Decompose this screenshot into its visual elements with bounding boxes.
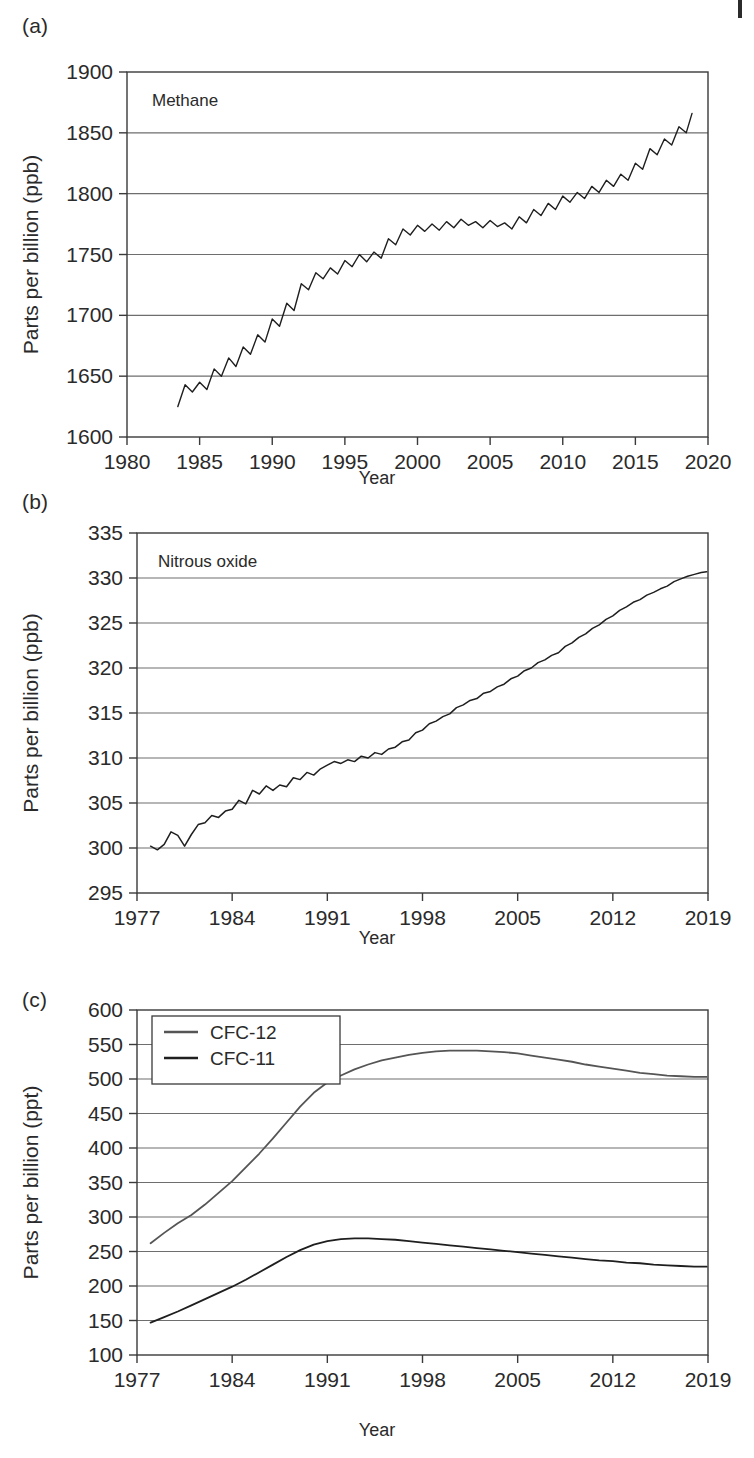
y-tick-label: 150 xyxy=(88,1309,123,1332)
y-tick-label: 300 xyxy=(88,836,123,859)
x-tick-label: 1998 xyxy=(399,906,446,929)
y-tick-label: 320 xyxy=(88,656,123,679)
y-tick-label: 1650 xyxy=(66,364,113,387)
y-tick-label: 310 xyxy=(88,746,123,769)
legend-label-cfc-11: CFC-11 xyxy=(210,1048,275,1069)
x-axis-title-c: Year xyxy=(0,1420,754,1441)
x-tick-label: 1984 xyxy=(209,906,256,929)
y-tick-label: 335 xyxy=(88,521,123,544)
y-tick-label: 325 xyxy=(88,611,123,634)
y-axis-title: Parts per billion (ppb) xyxy=(19,155,42,355)
x-tick-label: 2019 xyxy=(685,1368,732,1391)
y-tick-label: 450 xyxy=(88,1102,123,1125)
panel-nitrous-oxide: (b) 295300305310315320325330335197719841… xyxy=(0,490,754,960)
y-tick-label: 500 xyxy=(88,1067,123,1090)
series-line-nitrous-oxide xyxy=(151,572,707,850)
y-tick-label: 1600 xyxy=(66,425,113,448)
x-tick-label: 2019 xyxy=(685,906,732,929)
y-tick-label: 1900 xyxy=(66,60,113,83)
series-line-methane xyxy=(178,113,692,406)
y-tick-label: 330 xyxy=(88,566,123,589)
y-tick-label: 1750 xyxy=(66,243,113,266)
y-tick-label: 550 xyxy=(88,1033,123,1056)
chart-methane: 1600165017001750180018501900198019851990… xyxy=(0,0,754,500)
y-tick-label: 1850 xyxy=(66,121,113,144)
x-tick-label: 2012 xyxy=(589,1368,636,1391)
chart-cfc: 1001502002503003504004505005506001977198… xyxy=(0,950,754,1458)
y-tick-label: 200 xyxy=(88,1274,123,1297)
chart-nitrous-oxide: 2953003053103153203253303351977198419911… xyxy=(0,490,754,960)
x-tick-label: 2005 xyxy=(494,1368,541,1391)
y-tick-label: 350 xyxy=(88,1171,123,1194)
x-tick-label: 1977 xyxy=(114,1368,161,1391)
x-tick-label: 2005 xyxy=(494,906,541,929)
x-tick-label: 1991 xyxy=(304,906,351,929)
panel-methane: (a) 160016501700175018001850190019801985… xyxy=(0,0,754,500)
x-axis-title-a: Year xyxy=(0,468,754,489)
y-tick-label: 305 xyxy=(88,791,123,814)
y-axis-title: Parts per billion (ppt) xyxy=(19,1086,42,1280)
plot-annotation: Nitrous oxide xyxy=(158,552,257,571)
y-tick-label: 400 xyxy=(88,1136,123,1159)
y-tick-label: 100 xyxy=(88,1343,123,1366)
x-axis-title-b: Year xyxy=(0,928,754,949)
x-tick-label: 1998 xyxy=(399,1368,446,1391)
y-tick-label: 250 xyxy=(88,1240,123,1263)
y-tick-label: 1800 xyxy=(66,182,113,205)
plot-annotation: Methane xyxy=(152,91,218,110)
y-tick-label: 1700 xyxy=(66,303,113,326)
x-tick-label: 1991 xyxy=(304,1368,351,1391)
x-tick-label: 1984 xyxy=(209,1368,256,1391)
y-tick-label: 315 xyxy=(88,701,123,724)
y-tick-label: 295 xyxy=(88,881,123,904)
y-axis-title: Parts per billion (ppb) xyxy=(19,613,42,813)
x-tick-label: 1977 xyxy=(114,906,161,929)
panel-cfc: (c) 100150200250300350400450500550600197… xyxy=(0,950,754,1458)
x-tick-label: 2012 xyxy=(589,906,636,929)
y-tick-label: 300 xyxy=(88,1205,123,1228)
y-tick-label: 600 xyxy=(88,998,123,1021)
legend-label-cfc-12: CFC-12 xyxy=(210,1022,277,1043)
